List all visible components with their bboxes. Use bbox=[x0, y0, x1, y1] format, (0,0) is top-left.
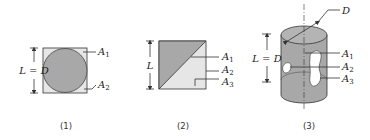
dimension-label: L bbox=[146, 60, 154, 71]
panel-2: L A1 A2 A3 (2) bbox=[146, 41, 234, 131]
diagram-canvas: L = D A1 A2 (1) L A1 A2 A3 (2) bbox=[0, 0, 370, 140]
blob-a1 bbox=[310, 51, 321, 86]
area-label-a1: A1 bbox=[97, 46, 110, 59]
caption-3: (3) bbox=[303, 121, 315, 131]
circle-area bbox=[43, 49, 87, 93]
area-label-a2: A2 bbox=[97, 79, 110, 92]
area-label-a1: A1 bbox=[341, 48, 354, 61]
caption-2: (2) bbox=[177, 121, 189, 131]
dimension-label: L = D bbox=[251, 53, 281, 64]
area-label-a1: A1 bbox=[221, 51, 234, 64]
panel-1: L = D A1 A2 (1) bbox=[18, 46, 109, 131]
diameter-label: D bbox=[341, 5, 350, 16]
dimension-label: L = D bbox=[18, 65, 48, 76]
area-label-a3: A3 bbox=[341, 73, 354, 86]
caption-1: (1) bbox=[60, 121, 72, 131]
panel-3: D L = D A1 A2 A3 (3) bbox=[251, 4, 353, 131]
area-label-a3: A3 bbox=[221, 76, 234, 89]
